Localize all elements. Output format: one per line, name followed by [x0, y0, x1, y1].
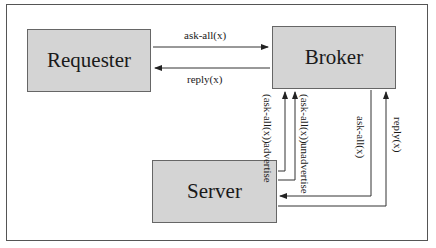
arrow-server-unadvertise: [278, 92, 295, 180]
requester-label: Requester: [47, 48, 131, 73]
edge-label-advertise: advertise (ask-all(x)): [262, 94, 273, 183]
server-label: Server: [187, 179, 242, 204]
broker-label: Broker: [305, 45, 363, 70]
broker-node: Broker: [272, 26, 396, 89]
edge-label-ask-all: ask-all(x): [184, 29, 226, 41]
edge-label-broker-ask-all: ask-all(x): [355, 116, 366, 158]
edge-label-unadvertise: unadvertise (ask-all(x)): [299, 94, 310, 194]
edge-label-reply: reply(x): [187, 73, 222, 85]
arrow-server-advertise: [278, 92, 285, 171]
arrow-server-reply: [278, 92, 386, 206]
server-node: Server: [152, 160, 277, 223]
requester-node: Requester: [27, 29, 151, 92]
edge-label-server-reply: reply(x): [392, 117, 403, 152]
